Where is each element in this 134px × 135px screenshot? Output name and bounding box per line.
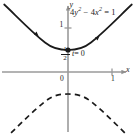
x-tick-label-1: 1 (111, 75, 115, 83)
origin-label: 0 (60, 75, 64, 83)
equation-right-side: = 1 (102, 7, 116, 17)
equation-minus-sign: − (81, 7, 90, 17)
plot-canvas (0, 0, 134, 135)
fraction-denominator: 2 (61, 55, 70, 62)
x-axis-label: x (126, 66, 130, 74)
vertex-fraction-label: 1 2 (61, 46, 70, 63)
figure-hyperbola: 4y2 − 4x2 = 1 y x 1 1 0 1 2 t= 0 (0, 0, 134, 135)
y-axis-label: y (70, 1, 74, 9)
parameter-value: = 0 (74, 49, 85, 58)
equation-annotation: 4y2 − 4x2 = 1 (70, 8, 116, 17)
fraction-numerator: 1 (61, 46, 70, 53)
y-tick-label-1: 1 (60, 21, 64, 29)
parameter-t-label: t= 0 (72, 50, 85, 58)
